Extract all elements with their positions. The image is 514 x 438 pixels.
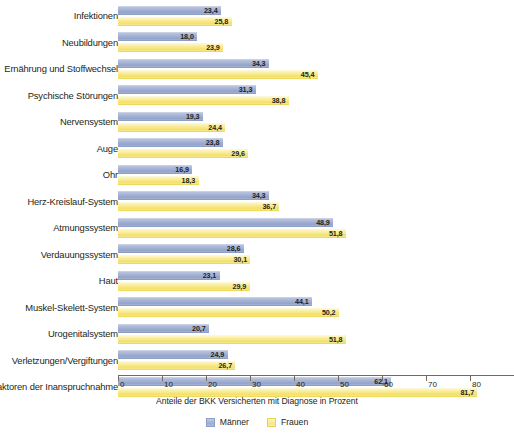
chart-row: Neubildungen18,023,9 [0, 30, 514, 57]
bar-value-female: 24,4 [208, 123, 222, 132]
chart-row: Haut23,129,9 [0, 268, 514, 295]
bar-male [118, 85, 256, 94]
bar-female [118, 229, 346, 238]
bar-value-male: 24,9 [211, 350, 225, 359]
row-bars: 19,324,4 [118, 109, 514, 136]
chart-legend: Männer Frauen [0, 417, 514, 427]
row-bars: 34,345,4 [118, 56, 514, 83]
legend-swatch-female [267, 418, 276, 427]
x-tick [250, 375, 251, 381]
row-bars: 28,630,1 [118, 242, 514, 269]
bar-value-male: 16,9 [175, 165, 189, 174]
x-tick [294, 375, 295, 381]
bar-value-female: 45,4 [301, 70, 315, 79]
row-bars: 23,829,6 [118, 136, 514, 163]
bar-value-male: 18,0 [180, 32, 194, 41]
category-label: Haut [99, 268, 118, 295]
x-tick [206, 375, 207, 381]
bar-male [118, 297, 312, 306]
bar-value-male: 23,1 [203, 271, 217, 280]
category-label: Verletzungen/Vergiftungen [12, 348, 118, 375]
x-tick [118, 375, 119, 381]
bar-value-male: 34,3 [252, 59, 266, 68]
bar-male [118, 244, 244, 253]
chart-row: Atmungssystem48,951,8 [0, 215, 514, 242]
x-axis-line [118, 375, 514, 376]
chart-row: Nervensystem19,324,4 [0, 109, 514, 136]
legend-item-frauen: Frauen [267, 417, 308, 427]
x-axis-caption: Anteile der BKK Versicherten mit Diagnos… [0, 396, 514, 406]
x-tick-label: 50 [340, 380, 349, 389]
bar-value-female: 29,9 [233, 282, 247, 291]
category-label: Auge [97, 136, 118, 163]
chart-row: Ernährung und Stoffwechsel34,345,4 [0, 56, 514, 83]
bar-value-female: 36,7 [262, 202, 276, 211]
bar-value-female: 26,7 [218, 361, 232, 370]
chart-row: Auge23,829,6 [0, 136, 514, 163]
x-tick-label: 0 [120, 380, 124, 389]
plot-area: Infektionen23,425,8Neubildungen18,023,9E… [0, 3, 514, 375]
bar-value-female: 18,3 [182, 176, 196, 185]
bar-value-female: 23,9 [206, 43, 220, 52]
row-bars: 16,918,3 [118, 162, 514, 189]
category-label: Herz-Kreislauf-System [27, 189, 118, 216]
bar-value-male: 48,9 [316, 218, 330, 227]
bar-value-female: 38,8 [272, 96, 286, 105]
x-tick [338, 375, 339, 381]
bar-female [118, 202, 279, 211]
x-tick-label: 80 [472, 380, 481, 389]
chart-row: Verdauungssystem28,630,1 [0, 242, 514, 269]
row-bars: 48,951,8 [118, 215, 514, 242]
row-bars: 34,336,7 [118, 189, 514, 216]
bar-value-male: 23,4 [204, 6, 218, 15]
bar-value-female: 25,8 [215, 17, 229, 26]
bar-value-male: 31,3 [239, 85, 253, 94]
bar-value-female: 30,1 [233, 255, 247, 264]
row-bars: 23,129,9 [118, 268, 514, 295]
row-bars: 23,425,8 [118, 3, 514, 30]
bar-male [118, 218, 333, 227]
bar-female [118, 70, 318, 79]
x-tick [426, 375, 427, 381]
chart-row: Muskel-Skelett-System44,150,2 [0, 295, 514, 322]
bar-female [118, 96, 289, 105]
bar-value-male: 20,7 [192, 324, 206, 333]
chart-row: Urogenitalsystem20,751,8 [0, 321, 514, 348]
x-tick-label: 10 [164, 380, 173, 389]
category-label: Muskel-Skelett-System [25, 295, 118, 322]
x-tick [382, 375, 383, 381]
bar-female [118, 149, 248, 158]
bar-female [118, 255, 250, 264]
chart-row: Psychische Störungen31,338,8 [0, 83, 514, 110]
bar-value-male: 34,3 [252, 191, 266, 200]
row-bars: 24,926,7 [118, 348, 514, 375]
bar-female [118, 308, 339, 317]
bar-female [118, 335, 346, 344]
x-tick-label: 20 [208, 380, 217, 389]
category-label: Infektionen [74, 3, 118, 30]
legend-item-maenner: Männer [206, 417, 249, 427]
category-label: Neubildungen [62, 30, 118, 57]
category-label: Psychische Störungen [28, 83, 118, 110]
x-tick [470, 375, 471, 381]
category-label: Ohr [103, 162, 118, 189]
chart-row: Herz-Kreislauf-System34,336,7 [0, 189, 514, 216]
category-label: Verdauungssystem [41, 242, 118, 269]
bar-value-female: 50,2 [322, 308, 336, 317]
category-label: Urogenitalsystem [48, 321, 118, 348]
x-tick-label: 30 [252, 380, 261, 389]
bar-value-female: 29,6 [231, 149, 245, 158]
legend-label-frauen: Frauen [281, 417, 308, 427]
x-axis: 0102030405060708090 [0, 375, 514, 397]
row-bars: 18,023,9 [118, 30, 514, 57]
x-tick-label: 40 [296, 380, 305, 389]
row-bars: 31,338,8 [118, 83, 514, 110]
legend-swatch-male [206, 418, 215, 427]
x-tick [162, 375, 163, 381]
bar-value-male: 23,8 [206, 138, 220, 147]
bar-value-male: 28,6 [227, 244, 241, 253]
category-label: Ernährung und Stoffwechsel [4, 56, 118, 83]
bar-value-female: 51,8 [329, 229, 343, 238]
category-label: Atmungssystem [53, 215, 118, 242]
bar-value-male: 44,1 [295, 297, 309, 306]
